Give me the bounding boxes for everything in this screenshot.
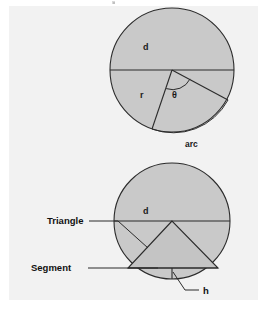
scan-artifacts (112, 1, 115, 4)
lower-label-h: h (203, 285, 209, 296)
upper-label-r: r (140, 90, 144, 100)
upper-label-d: d (143, 42, 149, 52)
lower-circle-group: d (114, 163, 230, 279)
upper-circle-group: d r θ arc (110, 8, 234, 149)
triangle-callout-label: Triangle (47, 215, 83, 226)
figure-root: d r θ arc d Triangle Segment (0, 0, 267, 311)
lower-label-d: d (143, 206, 149, 216)
upper-label-arc: arc (185, 139, 198, 149)
geometry-diagram: d r θ arc d Triangle Segment (0, 0, 267, 311)
segment-callout-label: Segment (31, 262, 72, 273)
upper-label-theta: θ (172, 90, 177, 100)
